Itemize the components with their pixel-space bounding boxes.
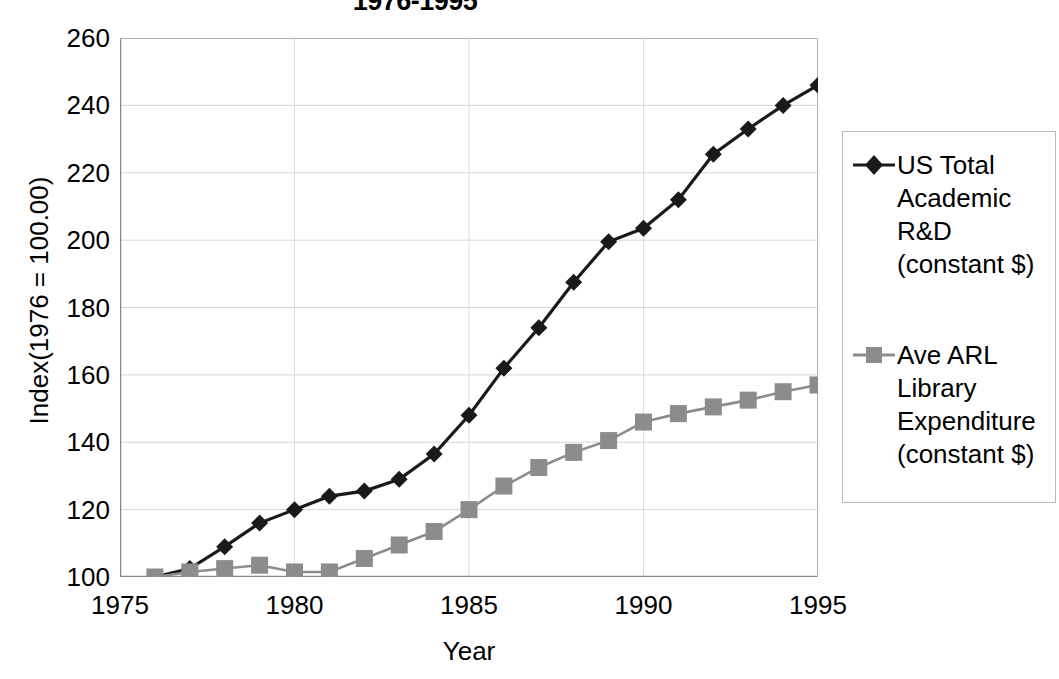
- data-point-square: [565, 444, 582, 461]
- gridlines: [120, 38, 818, 577]
- data-point-square: [635, 414, 652, 431]
- data-point-square: [286, 563, 303, 577]
- legend-entry-us-total-academic-rd[interactable]: US Total Academic R&D (constant $): [851, 149, 1051, 281]
- legend-label: US Total Academic R&D (constant $): [897, 149, 1034, 281]
- y-tick-label: 140: [40, 429, 110, 455]
- x-tick-label: 1990: [594, 592, 694, 618]
- series-ave-arl-library-expenditure: [146, 376, 818, 577]
- y-tick-label: 100: [40, 564, 110, 590]
- y-tick-label: 160: [40, 362, 110, 388]
- legend-label: Ave ARL Library Expenditure (constant $): [897, 339, 1036, 471]
- y-tick-label: 260: [40, 25, 110, 51]
- data-point-square: [705, 398, 722, 415]
- x-axis-title: Year: [120, 636, 818, 667]
- chart-title: 1976-1995: [0, 0, 830, 17]
- x-tick-label: 1985: [419, 592, 519, 618]
- data-point-square: [740, 392, 757, 409]
- data-point-square: [426, 523, 443, 540]
- data-point-diamond: [286, 501, 303, 518]
- plot-area: [120, 38, 818, 577]
- y-tick-label: 240: [40, 92, 110, 118]
- data-point-square: [181, 563, 198, 577]
- diamond-marker-icon: [851, 149, 897, 181]
- data-point-square: [356, 550, 373, 567]
- y-tick-label: 220: [40, 160, 110, 186]
- data-point-square: [495, 478, 512, 495]
- data-point-square: [461, 501, 478, 518]
- data-point-square: [810, 376, 819, 393]
- y-tick-label: 180: [40, 295, 110, 321]
- y-tick-label: 200: [40, 227, 110, 253]
- data-point-square: [600, 432, 617, 449]
- series-line: [155, 85, 818, 577]
- x-axis-tick-labels: 19751980198519901995: [0, 592, 1059, 626]
- data-point-diamond: [356, 483, 373, 500]
- x-tick-label: 1980: [245, 592, 345, 618]
- data-point-square: [391, 536, 408, 553]
- data-point-square: [530, 459, 547, 476]
- data-point-square: [775, 383, 792, 400]
- y-tick-label: 120: [40, 497, 110, 523]
- x-tick-label: 1975: [70, 592, 170, 618]
- data-point-square: [216, 560, 233, 577]
- chart-legend: US Total Academic R&D (constant $) Ave A…: [842, 131, 1056, 503]
- data-point-square: [321, 563, 338, 577]
- legend-entry-ave-arl-library-expenditure[interactable]: Ave ARL Library Expenditure (constant $): [851, 339, 1051, 471]
- data-point-diamond: [321, 488, 338, 505]
- chart-svg: [120, 38, 818, 577]
- data-point-square: [251, 557, 268, 574]
- data-point-square: [146, 569, 163, 578]
- data-point-square: [670, 405, 687, 422]
- square-marker-icon: [851, 339, 897, 371]
- x-tick-label: 1995: [768, 592, 868, 618]
- y-axis-tick-labels: 100120140160180200220240260: [36, 0, 110, 679]
- chart-page: 1976-1995 Index(1976 = 100.00) 100120140…: [0, 0, 1059, 679]
- data-series-layer: [146, 77, 818, 577]
